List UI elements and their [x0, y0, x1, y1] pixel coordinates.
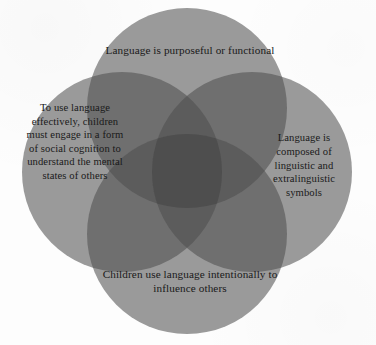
venn-diagram-figure: Language is purposeful or functional Lan…	[0, 0, 376, 345]
venn-diagram-canvas	[0, 0, 376, 345]
